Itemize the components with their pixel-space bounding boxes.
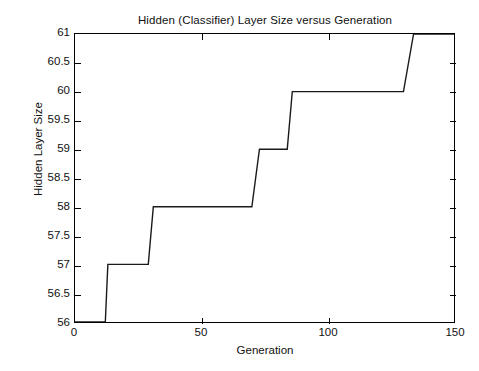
y-tick-mark [450,121,456,122]
y-tick-mark [75,295,81,296]
y-tick-mark [75,92,81,93]
y-tick-label: 59.5 [48,114,70,126]
y-tick-label: 61 [57,27,70,39]
y-tick-mark [450,237,456,238]
chart-title: Hidden (Classifier) Layer Size versus Ge… [74,14,456,26]
y-tick-label: 58 [57,201,70,213]
y-tick-mark [75,63,81,64]
chart-figure: Hidden (Classifier) Layer Size versus Ge… [0,0,479,371]
x-tick-label: 150 [435,326,475,338]
y-tick-mark [75,150,81,151]
y-tick-mark [75,237,81,238]
y-tick-label: 58.5 [48,172,70,184]
y-tick-mark [75,179,81,180]
y-tick-label: 59 [57,143,70,155]
x-tick-mark [329,34,330,40]
y-tick-mark [450,179,456,180]
y-tick-label: 60 [57,85,70,97]
y-tick-mark [75,121,81,122]
y-axis-tick-labels: 5656.55757.55858.55959.56060.561 [14,0,70,371]
y-tick-mark [450,295,456,296]
series-line-hidden-layer-size [75,34,454,322]
y-tick-mark [75,266,81,267]
y-tick-mark [450,266,456,267]
x-tick-label: 100 [308,326,348,338]
x-tick-label: 0 [54,326,94,338]
x-tick-mark [329,318,330,324]
y-tick-label: 57.5 [48,230,70,242]
y-tick-label: 60.5 [48,56,70,68]
x-axis-title: Generation [74,344,456,356]
y-tick-mark [450,92,456,93]
data-series-svg [75,34,454,322]
y-tick-mark [75,208,81,209]
x-tick-label: 50 [181,326,221,338]
y-tick-mark [450,208,456,209]
y-tick-mark [450,63,456,64]
x-tick-mark [202,318,203,324]
y-tick-label: 56.5 [48,288,70,300]
plot-area [74,33,455,323]
y-tick-mark [450,150,456,151]
y-tick-label: 57 [57,259,70,271]
x-tick-mark [202,34,203,40]
